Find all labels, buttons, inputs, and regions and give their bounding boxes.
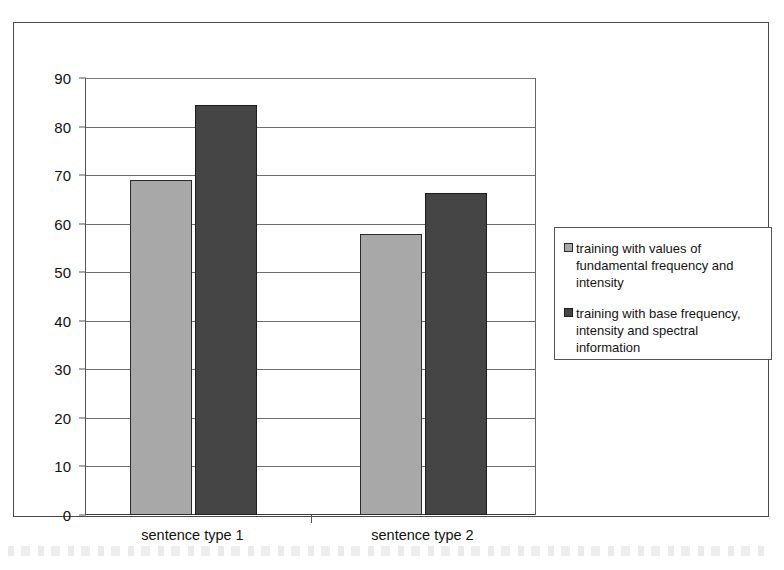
y-tick-label-60: 60	[14, 216, 71, 231]
bar-series-b-group-2	[425, 193, 487, 515]
gridline-80	[86, 127, 535, 128]
gridline-90	[86, 78, 535, 79]
figure-frame: 0102030405060708090 sentence type 1sente…	[13, 22, 769, 517]
plot-area	[85, 78, 536, 515]
plot-inner	[86, 78, 535, 515]
y-tick-label-70: 70	[14, 168, 71, 183]
chart-legend: training with values of fundamental freq…	[554, 227, 772, 360]
legend-item-series-a: training with values of fundamental freq…	[564, 240, 761, 291]
legend-item-series-b: training with base frequency, intensity …	[564, 305, 761, 356]
gridline-70	[86, 175, 535, 176]
legend-swatch-series-a-icon	[564, 243, 573, 252]
y-tick-label-40: 40	[14, 313, 71, 328]
y-tick-label-0: 0	[14, 508, 71, 523]
y-tick-label-30: 30	[14, 362, 71, 377]
category-label-2: sentence type 2	[371, 527, 473, 543]
scan-artifact	[8, 546, 768, 556]
y-tick-label-20: 20	[14, 410, 71, 425]
bar-series-a-group-1	[130, 180, 192, 515]
legend-label-series-a: training with values of fundamental freq…	[576, 240, 761, 291]
legend-label-series-b: training with base frequency, intensity …	[576, 305, 761, 356]
bar-series-a-group-2	[360, 234, 422, 515]
y-tick-label-90: 90	[14, 71, 71, 86]
y-tick-label-50: 50	[14, 265, 71, 280]
y-tick-label-10: 10	[14, 459, 71, 474]
y-tick-label-80: 80	[14, 119, 71, 134]
bar-series-b-group-1	[195, 105, 257, 515]
category-axis-tick	[311, 515, 312, 523]
legend-swatch-series-b-icon	[564, 308, 573, 317]
category-label-1: sentence type 1	[141, 527, 243, 543]
